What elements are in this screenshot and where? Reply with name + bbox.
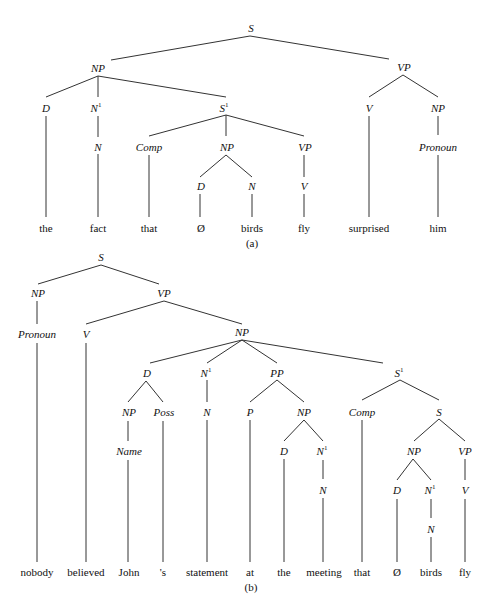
word-at: at xyxy=(246,566,254,578)
node-Pronoun: Pronoun xyxy=(418,141,458,153)
word-possessive-s: 's xyxy=(160,566,166,578)
caption-a: (a) xyxy=(246,237,259,250)
tree-a: S NP VP D N1 S1 V NP N Comp NP VP Pronou… xyxy=(39,22,457,250)
node-N1-pp: N1 xyxy=(316,444,328,457)
node-N-pp: N xyxy=(318,484,327,496)
node-D-embedded: D xyxy=(392,484,401,496)
caption-b: (b) xyxy=(245,581,258,594)
node-NP-possessor: NP xyxy=(121,406,136,418)
node-D: D xyxy=(142,367,151,379)
node-V-embedded: V xyxy=(301,180,309,192)
node-N1: N1 xyxy=(200,366,212,379)
node-PP: PP xyxy=(269,367,284,379)
word-statement: statement xyxy=(186,566,228,578)
node-N-embedded: N xyxy=(247,180,256,192)
node-S: S xyxy=(98,251,104,263)
node-N1: N1 xyxy=(90,101,102,114)
node-S1: S1 xyxy=(395,366,405,379)
node-D-pp: D xyxy=(279,445,288,457)
node-NP-embedded: NP xyxy=(406,445,421,457)
node-NP-pp-object: NP xyxy=(296,406,311,418)
word-believed: believed xyxy=(67,566,105,578)
word-fly: fly xyxy=(298,222,311,234)
word-birds: birds xyxy=(420,566,442,578)
node-D: D xyxy=(41,102,50,114)
node-N: N xyxy=(93,141,102,153)
word-the: the xyxy=(277,566,291,578)
node-Pronoun: Pronoun xyxy=(17,328,57,340)
word-null: Ø xyxy=(197,222,205,234)
node-NP-object: NP xyxy=(430,102,445,114)
syntax-tree-figure: S NP VP D N1 S1 V NP N Comp NP VP Pronou… xyxy=(0,0,494,612)
word-birds: birds xyxy=(241,222,263,234)
word-fact: fact xyxy=(90,222,106,234)
word-that: that xyxy=(354,566,371,578)
node-Poss: Poss xyxy=(153,406,175,418)
node-VP-embedded: VP xyxy=(298,141,312,153)
word-meeting: meeting xyxy=(306,566,342,578)
word-null: Ø xyxy=(393,566,401,578)
node-NP-subject: NP xyxy=(30,287,45,299)
word-the: the xyxy=(39,222,53,234)
node-D-embedded: D xyxy=(196,180,205,192)
node-NP-object: NP xyxy=(234,326,249,338)
word-John: John xyxy=(119,566,140,578)
node-N: N xyxy=(202,406,211,418)
node-N-embedded: N xyxy=(426,523,435,535)
word-fly: fly xyxy=(459,566,472,578)
node-N1-embedded: N1 xyxy=(424,483,436,496)
node-VP: VP xyxy=(157,287,171,299)
word-that: that xyxy=(141,222,158,234)
node-S-embedded: S xyxy=(436,406,442,418)
node-VP-embedded: VP xyxy=(458,445,472,457)
node-V-embedded: V xyxy=(462,484,470,496)
tree-b: S NP VP Pronoun V NP D N1 PP S1 NP Poss … xyxy=(17,251,472,594)
node-NP-embedded: NP xyxy=(219,141,234,153)
word-surprised: surprised xyxy=(349,222,390,234)
word-him: him xyxy=(429,222,447,234)
node-Name: Name xyxy=(115,445,142,457)
node-S1: S1 xyxy=(220,101,230,114)
node-S: S xyxy=(248,22,254,34)
node-V: V xyxy=(366,102,374,114)
node-P: P xyxy=(246,406,254,418)
node-V: V xyxy=(83,328,91,340)
node-Comp: Comp xyxy=(136,141,163,153)
node-Comp: Comp xyxy=(349,406,376,418)
node-VP: VP xyxy=(397,61,411,73)
node-NP: NP xyxy=(90,62,105,74)
word-nobody: nobody xyxy=(21,566,55,578)
